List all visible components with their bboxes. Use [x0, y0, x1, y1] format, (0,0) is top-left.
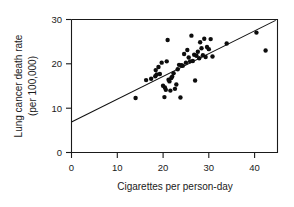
data-point [184, 60, 188, 64]
data-point [185, 48, 189, 52]
data-point [149, 77, 153, 81]
x-axis-title: Cigarettes per person-day [117, 181, 233, 192]
data-point [207, 47, 211, 51]
data-point [199, 46, 203, 50]
data-point [189, 33, 193, 37]
x-tick-label-30: 30 [204, 162, 215, 173]
data-point [158, 72, 162, 76]
data-point [186, 55, 190, 59]
data-point [203, 55, 207, 59]
data-point [224, 41, 228, 45]
data-point [191, 59, 195, 63]
chart-canvas: 30 20 10 0 0 10 20 30 40 Cigarettes per … [0, 0, 294, 207]
data-point [263, 48, 267, 52]
data-point [210, 54, 214, 58]
data-point [144, 78, 148, 82]
y-axis-title-line1: Lung cancer death rate [13, 34, 24, 137]
y-axis-tick-labels: 30 20 10 0 [51, 14, 62, 158]
x-tick-label-0: 0 [69, 162, 74, 173]
data-point [202, 36, 206, 40]
data-point [159, 60, 163, 64]
y-axis-ticks [66, 20, 72, 153]
x-tick-label-10: 10 [112, 162, 123, 173]
data-point [181, 64, 185, 68]
data-point [182, 52, 186, 56]
data-point [198, 40, 202, 44]
data-point [173, 87, 177, 91]
data-point [174, 82, 178, 86]
y-tick-label-10: 10 [51, 103, 62, 114]
y-tick-label-30: 30 [51, 14, 62, 25]
x-tick-label-20: 20 [158, 162, 169, 173]
y-tick-label-20: 20 [51, 58, 62, 69]
data-point [254, 30, 258, 34]
x-tick-label-40: 40 [249, 162, 260, 173]
plot-frame [72, 20, 278, 153]
data-point [156, 65, 160, 69]
x-axis-tick-labels: 0 10 20 30 40 [69, 162, 260, 173]
data-point [176, 67, 180, 71]
x-axis-ticks [72, 153, 255, 159]
data-point [162, 95, 166, 99]
data-point [133, 96, 137, 100]
data-point [168, 88, 172, 92]
data-points-group [133, 30, 267, 100]
data-point [197, 56, 201, 60]
y-tick-label-0: 0 [57, 147, 62, 158]
scatter-plot-figure: 30 20 10 0 0 10 20 30 40 Cigarettes per … [0, 0, 294, 207]
data-point [196, 50, 200, 54]
data-point [164, 88, 168, 92]
data-point [193, 78, 197, 82]
data-point [171, 71, 175, 75]
data-point [178, 95, 182, 99]
y-axis-title-line2: (per 100,000) [27, 56, 38, 116]
data-point [165, 59, 169, 63]
data-point [208, 37, 212, 41]
data-point [165, 38, 169, 42]
